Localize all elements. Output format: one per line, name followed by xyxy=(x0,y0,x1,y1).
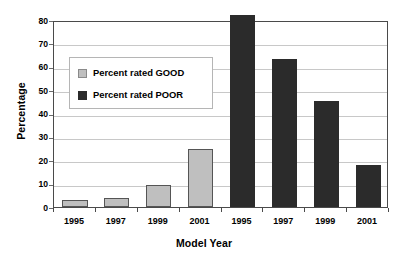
bar-poor-1995 xyxy=(230,15,255,207)
bar-good-1999 xyxy=(146,185,171,207)
y-tick-label: 20 xyxy=(20,156,48,167)
y-tick-label: 60 xyxy=(20,62,48,73)
x-tick-mark xyxy=(388,208,389,212)
x-tick-mark xyxy=(346,208,347,212)
x-tick-label: 2001 xyxy=(341,215,393,227)
legend-entry-good: Percent rated GOOD xyxy=(78,66,184,80)
x-axis-title: Model Year xyxy=(0,236,408,250)
bar-good-1995 xyxy=(62,200,87,207)
x-tick-mark xyxy=(221,208,222,212)
y-tick-label: 70 xyxy=(20,39,48,50)
legend-swatch-poor-icon xyxy=(78,91,87,100)
y-tick-label: 30 xyxy=(20,132,48,143)
x-tick-mark xyxy=(179,208,180,212)
bar-poor-1999 xyxy=(314,101,339,207)
legend-swatch-good-icon xyxy=(78,69,87,78)
plot-area xyxy=(53,21,388,208)
y-axis-tick-labels: 01020304050607080 xyxy=(20,0,48,263)
y-tick-label: 40 xyxy=(20,109,48,120)
y-tick-label: 10 xyxy=(20,179,48,190)
x-tick-mark xyxy=(304,208,305,212)
bar-good-1997 xyxy=(104,198,129,207)
legend-label-good: Percent rated GOOD xyxy=(93,68,184,78)
y-tick-label: 80 xyxy=(20,16,48,27)
bar-poor-2001 xyxy=(356,165,381,207)
bar-good-2001 xyxy=(188,149,213,207)
legend-label-poor: Percent rated POOR xyxy=(93,90,183,100)
legend-entry-poor: Percent rated POOR xyxy=(78,88,183,102)
x-tick-mark xyxy=(95,208,96,212)
bar-chart: Percentage 01020304050607080 19951997199… xyxy=(0,0,408,263)
x-tick-mark xyxy=(137,208,138,212)
x-tick-mark xyxy=(262,208,263,212)
y-tick-label: 0 xyxy=(20,203,48,214)
bar-poor-1997 xyxy=(272,59,297,207)
bars-layer xyxy=(54,22,387,207)
chart-legend: Percent rated GOOD Percent rated POOR xyxy=(69,57,213,109)
y-tick-label: 50 xyxy=(20,86,48,97)
x-tick-mark xyxy=(53,208,54,212)
